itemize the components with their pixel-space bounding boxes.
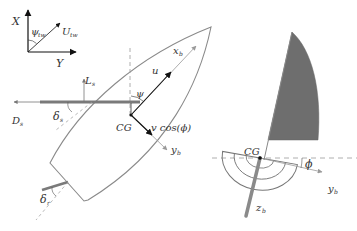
- rudder-angle-label: δ: [40, 193, 47, 206]
- body-y-label: y: [170, 144, 177, 155]
- sail-angle-label: δ: [53, 110, 60, 123]
- rear-view: CG ϕ y b z b: [212, 32, 357, 216]
- wind-angle-subscript: tw: [38, 31, 46, 38]
- sway-label: v cos(ϕ): [151, 122, 191, 133]
- lift-label: L: [84, 75, 92, 86]
- top-view: L s D s δ s CG ψ u x b v cos(ϕ) y b δ r: [11, 27, 211, 220]
- rudder-angle-arc: [52, 187, 56, 196]
- body-y-subscript: b: [177, 149, 181, 156]
- sway-arrow: [131, 115, 152, 135]
- rear-body-y-arrow: [260, 158, 322, 172]
- rear-cg-label: CG: [244, 146, 260, 157]
- inertial-frame: X Y ψ tw U tw: [11, 10, 78, 70]
- x-axis-label: X: [11, 15, 21, 28]
- sailboat-diagram: X Y ψ tw U tw L s D s δ s CG ψ u: [0, 0, 357, 231]
- rudder: [42, 182, 68, 190]
- wind-angle-arc: [28, 40, 37, 44]
- lift-subscript: s: [92, 80, 95, 87]
- sail-angle-subscript: s: [60, 116, 63, 123]
- heading-angle-label: ψ: [136, 88, 144, 99]
- rear-body-y-subscript: b: [334, 188, 338, 195]
- drag-subscript: s: [20, 120, 23, 127]
- rear-body-z-subscript: b: [262, 207, 266, 214]
- wind-vector-subscript: tw: [70, 31, 78, 38]
- rear-body-y-label: y: [327, 183, 334, 194]
- sail: [268, 32, 319, 140]
- surge-label: u: [152, 65, 158, 76]
- drag-label: D: [11, 115, 20, 126]
- heel-angle-label: ϕ: [305, 158, 313, 171]
- y-axis-label: Y: [56, 57, 65, 70]
- heel-angle-arc: [301, 158, 302, 168]
- body-x-subscript: b: [179, 50, 183, 57]
- rear-body-z-label: z: [255, 202, 262, 213]
- rudder-angle-subscript: r: [47, 199, 51, 206]
- cg-label: CG: [116, 122, 132, 133]
